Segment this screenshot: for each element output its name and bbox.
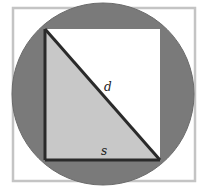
- diagonal-label: d: [104, 80, 112, 94]
- square-in-circle-diagram: d s: [0, 0, 207, 192]
- side-label: s: [101, 144, 107, 158]
